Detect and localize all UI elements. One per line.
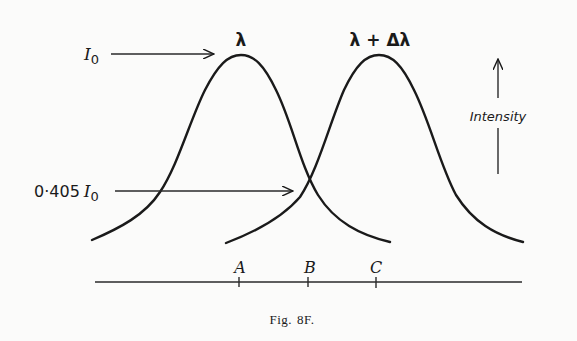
diagram-canvas: λ λ + Δλ I0 0·405I0 Intensity A B C Fig.… <box>0 0 577 341</box>
label-point-b: B <box>303 258 316 277</box>
figure-8f: λ λ + Δλ I0 0·405I0 Intensity A B C Fig.… <box>0 0 577 341</box>
label-0405-I0: 0·405I0 <box>34 181 99 204</box>
figure-caption: Fig.8F. <box>269 312 314 327</box>
label-intensity: Intensity <box>470 109 527 124</box>
label-point-c: C <box>370 258 382 277</box>
label-lambda-plus-delta: λ + Δλ <box>350 30 411 50</box>
label-I0: I0 <box>83 44 99 67</box>
curve-lambda <box>92 55 390 242</box>
label-point-a: A <box>232 258 246 277</box>
label-lambda: λ <box>236 30 247 50</box>
curve-lambda-plus-delta <box>226 55 523 243</box>
